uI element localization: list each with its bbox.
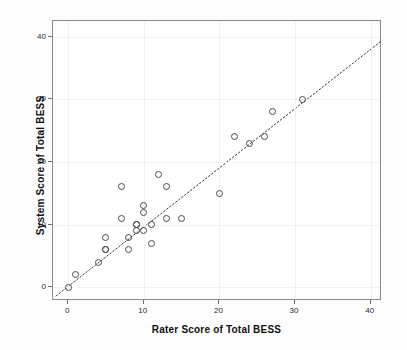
data-point [299, 96, 306, 103]
x-axis-tick-label: 0 [65, 306, 69, 315]
data-point [133, 227, 140, 234]
data-point [163, 215, 170, 222]
y-axis-tick-label: 0 [28, 282, 46, 291]
x-axis-tick [218, 300, 219, 304]
gridline-vertical [68, 21, 69, 299]
gridline-horizontal [53, 37, 380, 38]
gridline-vertical [144, 21, 145, 299]
data-point [231, 133, 238, 140]
gridline-vertical [371, 21, 372, 299]
plot-area [52, 20, 381, 300]
y-axis-tick [48, 36, 52, 37]
x-axis-tick-label: 20 [214, 306, 223, 315]
data-point [246, 140, 253, 147]
data-point [118, 183, 125, 190]
data-point [65, 284, 72, 291]
y-axis-tick [48, 224, 52, 225]
data-point [72, 271, 79, 278]
data-point [148, 240, 155, 247]
y-axis-tick [48, 98, 52, 99]
trend-line [56, 42, 380, 296]
data-point [178, 215, 185, 222]
gridline-horizontal [53, 225, 380, 226]
x-axis-tick-label: 30 [290, 306, 299, 315]
x-axis-tick-label: 40 [365, 306, 374, 315]
y-axis-tick [48, 286, 52, 287]
data-point [102, 246, 109, 253]
scatter-plot-screenshot: 010203040010203040 Rater Score of Total … [0, 0, 407, 350]
data-point [163, 183, 170, 190]
data-point [95, 259, 102, 266]
data-point [261, 133, 268, 140]
gridline-horizontal [53, 287, 380, 288]
gridline-horizontal [53, 162, 380, 163]
data-point [125, 234, 132, 241]
gridline-vertical [295, 21, 296, 299]
y-axis-tick [48, 161, 52, 162]
data-point [125, 246, 132, 253]
y-axis-tick-label: 40 [28, 31, 46, 40]
x-axis-tick [143, 300, 144, 304]
x-axis-tick [67, 300, 68, 304]
x-axis-tick-label: 10 [138, 306, 147, 315]
data-point [148, 221, 155, 228]
x-axis-title: Rater Score of Total BESS [52, 324, 381, 335]
trend-line-svg [53, 21, 380, 299]
x-axis-tick [370, 300, 371, 304]
data-point [216, 190, 223, 197]
data-point [140, 227, 147, 234]
data-point [155, 171, 162, 178]
gridline-vertical [219, 21, 220, 299]
y-axis-title: System Score of Total BESS [35, 66, 46, 266]
gridline-horizontal [53, 99, 380, 100]
data-point [118, 215, 125, 222]
data-point [269, 108, 276, 115]
data-point [102, 234, 109, 241]
data-point [140, 209, 147, 216]
x-axis-tick [294, 300, 295, 304]
